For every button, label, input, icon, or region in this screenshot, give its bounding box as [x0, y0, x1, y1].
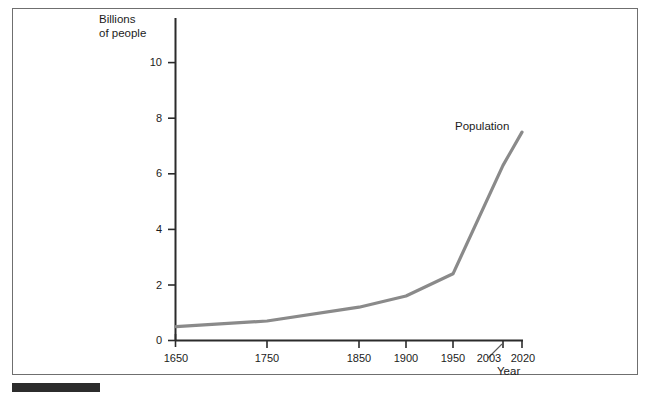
y-axis-title-line1: Billions: [99, 13, 146, 27]
y-tick-label-0: 0: [136, 334, 162, 347]
chart-screenshot: Billions of people 0 2 4 6 8 10 1650 175…: [0, 0, 651, 395]
x-tick-label-1750: 1750: [244, 352, 290, 365]
y-tick-label-2: 2: [136, 279, 162, 292]
x-tick-label-2020: 2020: [500, 352, 546, 365]
y-tick-label-8: 8: [136, 112, 162, 125]
y-tick-label-6: 6: [136, 167, 162, 180]
chart-svg: [0, 0, 651, 395]
y-tick-label-10: 10: [136, 56, 162, 69]
y-tick-label-4: 4: [136, 223, 162, 236]
y-axis-title-line2: of people: [99, 27, 146, 41]
series-label-population: Population: [455, 120, 509, 134]
population-line: [176, 132, 522, 327]
caption-bar: [12, 383, 100, 392]
x-axis-title: Year: [497, 365, 520, 379]
y-axis-ticks: [168, 63, 175, 341]
x-tick-label-1650: 1650: [153, 352, 199, 365]
x-tick-label-1850: 1850: [336, 352, 382, 365]
y-axis-title: Billions of people: [99, 13, 146, 40]
plot-area: Billions of people 0 2 4 6 8 10 1650 175…: [0, 0, 651, 395]
x-tick-label-1900: 1900: [383, 352, 429, 365]
